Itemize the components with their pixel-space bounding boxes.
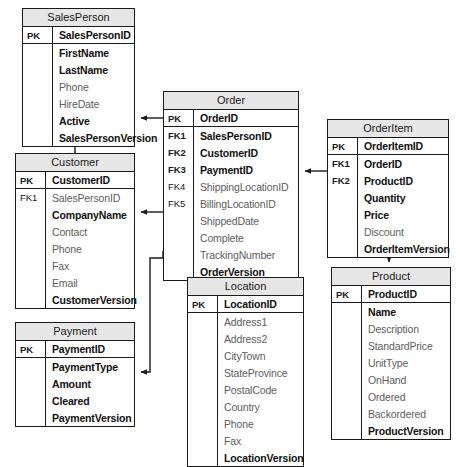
field-row[interactable]: PKPaymentID: [16, 341, 134, 358]
field-row[interactable]: StateProvince: [188, 364, 303, 381]
field-key: [23, 44, 53, 61]
field-row[interactable]: ShippedDate: [164, 212, 298, 229]
field-row[interactable]: Address2: [188, 330, 303, 347]
field-name: OrderID: [194, 112, 238, 124]
field-key: PK: [332, 286, 362, 302]
field-row[interactable]: OrderItemVersion: [328, 240, 448, 257]
field-name: SalesPersonVersion: [53, 132, 157, 144]
field-name: TrackingNumber: [194, 249, 275, 261]
field-key: FK1: [328, 155, 358, 172]
field-name: Backordered: [362, 408, 426, 420]
field-name: CustomerID: [194, 147, 258, 159]
field-row[interactable]: PKOrderID: [164, 110, 298, 127]
field-row[interactable]: Contact: [16, 223, 134, 240]
field-row[interactable]: PKProductID: [332, 286, 450, 303]
field-row[interactable]: FK1SalesPersonID: [164, 127, 298, 144]
field-row[interactable]: SalesPersonVersion: [23, 129, 134, 146]
field-row[interactable]: Quantity: [328, 189, 448, 206]
field-row[interactable]: FK2CustomerID: [164, 144, 298, 161]
entity-location[interactable]: LocationPKLocationIDAddress1Address2City…: [187, 277, 304, 467]
field-key: [16, 257, 46, 274]
field-row[interactable]: Email: [16, 274, 134, 291]
field-name: OrderVersion: [194, 266, 265, 278]
field-row[interactable]: Phone: [188, 415, 303, 432]
entity-title-order: Order: [164, 92, 298, 110]
field-row[interactable]: FK5BillingLocationID: [164, 195, 298, 212]
entity-order[interactable]: OrderPKOrderIDFK1SalesPersonIDFK2Custome…: [163, 91, 299, 281]
field-row[interactable]: Fax: [16, 257, 134, 274]
field-name: Fax: [46, 260, 69, 272]
field-key: [16, 392, 46, 409]
field-row[interactable]: FK1OrderID: [328, 155, 448, 172]
field-row[interactable]: FK1SalesPersonID: [16, 189, 134, 206]
field-key: PK: [16, 341, 46, 357]
field-row[interactable]: Active: [23, 112, 134, 129]
field-row[interactable]: CustomerVersion: [16, 291, 134, 308]
field-row[interactable]: PaymentVersion: [16, 409, 134, 426]
entity-title-location: Location: [188, 278, 303, 296]
field-name: ProductID: [362, 288, 417, 300]
field-key: [23, 78, 53, 95]
field-row[interactable]: Address1: [188, 313, 303, 330]
field-key: [328, 189, 358, 206]
field-row[interactable]: PKOrderItemID: [328, 138, 448, 155]
field-row[interactable]: StandardPrice: [332, 337, 450, 354]
field-row[interactable]: FK4ShippingLocationID: [164, 178, 298, 195]
field-name: LocationVersion: [218, 452, 303, 464]
field-row[interactable]: Price: [328, 206, 448, 223]
entity-product[interactable]: ProductPKProductIDNameDescriptionStandar…: [331, 267, 451, 440]
entity-salesperson[interactable]: SalesPersonPKSalesPersonIDFirstNameLastN…: [22, 8, 135, 147]
field-key: [23, 95, 53, 112]
field-row[interactable]: Phone: [23, 78, 134, 95]
field-row[interactable]: Country: [188, 398, 303, 415]
field-row[interactable]: Name: [332, 303, 450, 320]
field-row[interactable]: Ordered: [332, 388, 450, 405]
field-row[interactable]: FK2ProductID: [328, 172, 448, 189]
field-name: Active: [53, 115, 90, 127]
field-name: Amount: [46, 378, 91, 390]
field-row[interactable]: PKSalesPersonID: [23, 27, 134, 44]
field-row[interactable]: PKLocationID: [188, 296, 303, 313]
entity-title-salesperson: SalesPerson: [23, 9, 134, 27]
field-row[interactable]: FirstName: [23, 44, 134, 61]
field-name: Description: [362, 323, 419, 335]
field-row[interactable]: Phone: [16, 240, 134, 257]
field-row[interactable]: Cleared: [16, 392, 134, 409]
field-row[interactable]: PaymentType: [16, 358, 134, 375]
field-row[interactable]: CompanyName: [16, 206, 134, 223]
field-name: BillingLocationID: [194, 198, 276, 210]
field-key: FK1: [164, 127, 194, 144]
field-row[interactable]: HireDate: [23, 95, 134, 112]
field-name: Price: [358, 209, 389, 221]
field-row[interactable]: PKCustomerID: [16, 172, 134, 189]
field-row[interactable]: OnHand: [332, 371, 450, 388]
entity-orderitem[interactable]: OrderItemPKOrderItemIDFK1OrderIDFK2Produ…: [327, 119, 449, 258]
field-row[interactable]: ProductVersion: [332, 422, 450, 439]
field-key: [16, 274, 46, 291]
field-key: [16, 291, 46, 308]
field-row[interactable]: FK3PaymentID: [164, 161, 298, 178]
field-row[interactable]: TrackingNumber: [164, 246, 298, 263]
field-row[interactable]: LocationVersion: [188, 449, 303, 466]
field-key: PK: [16, 172, 46, 188]
entity-customer[interactable]: CustomerPKCustomerIDFK1SalesPersonIDComp…: [15, 153, 135, 309]
field-row[interactable]: PostalCode: [188, 381, 303, 398]
field-row[interactable]: Fax: [188, 432, 303, 449]
field-key: [188, 449, 218, 466]
field-row[interactable]: UnitType: [332, 354, 450, 371]
field-key: [23, 129, 53, 146]
field-row[interactable]: Description: [332, 320, 450, 337]
field-key: [332, 388, 362, 405]
field-row[interactable]: Amount: [16, 375, 134, 392]
field-row[interactable]: Discount: [328, 223, 448, 240]
field-key: FK2: [164, 144, 194, 161]
field-row[interactable]: LastName: [23, 61, 134, 78]
entity-fields-product: PKProductIDNameDescriptionStandardPriceU…: [332, 286, 450, 439]
field-row[interactable]: Complete: [164, 229, 298, 246]
field-row[interactable]: CityTown: [188, 347, 303, 364]
entity-fields-orderitem: PKOrderItemIDFK1OrderIDFK2ProductIDQuant…: [328, 138, 448, 257]
entity-payment[interactable]: PaymentPKPaymentIDPaymentTypeAmountClear…: [15, 322, 135, 427]
field-row[interactable]: Backordered: [332, 405, 450, 422]
field-name: Complete: [194, 232, 244, 244]
